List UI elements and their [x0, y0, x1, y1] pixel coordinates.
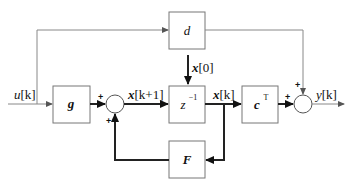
initial-state-label: x[0] [191, 60, 214, 75]
summing-junction-2: + + [285, 80, 312, 113]
F-to-sum1-line [115, 114, 169, 160]
delay-exponent: −1 [189, 93, 198, 102]
input-block-g: g [53, 86, 90, 123]
sum1-plus-bottom: + [106, 116, 111, 126]
sum2-plus-left: + [285, 92, 290, 102]
d-to-sum2-line [205, 30, 303, 94]
block-c-label: c [254, 97, 260, 112]
state-label: x[k] [212, 87, 235, 102]
block-F-label: F [182, 152, 192, 167]
input-label: u[k] [14, 87, 36, 102]
summing-junction-1: + + [98, 92, 124, 126]
output-label: y[k] [314, 87, 337, 102]
block-g-label: g [67, 96, 75, 111]
block-c-exponent: T [264, 93, 269, 102]
block-d-label: d [184, 23, 191, 38]
state-to-F-line [206, 104, 224, 160]
feedback-block-F: F [169, 141, 205, 178]
sum2-plus-top: + [295, 80, 300, 90]
sum1-plus-left: + [98, 92, 103, 102]
delay-label: z [179, 97, 185, 112]
output-block-c: c T [242, 86, 278, 123]
feedthrough-block-d: d [169, 12, 205, 49]
delay-block: z −1 [169, 86, 205, 123]
block-diagram: u[k] d g + + x[k+1] x[0] z −1 x[k] F c T [0, 0, 355, 189]
next-state-label: x[k+1] [127, 87, 164, 102]
